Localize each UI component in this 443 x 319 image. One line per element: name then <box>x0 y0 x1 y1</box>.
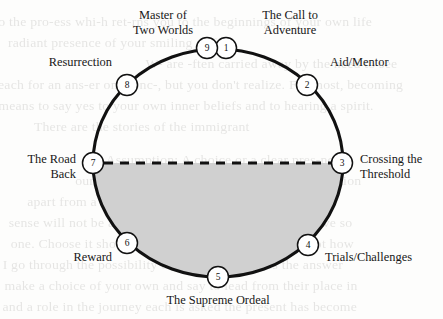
node-label-8: Resurrection <box>49 55 112 70</box>
node-number-7: 7 <box>83 158 103 168</box>
node-number-2: 2 <box>297 80 317 90</box>
node-label-4: Trials/Challenges <box>325 250 412 265</box>
node-number-5: 5 <box>208 272 228 282</box>
node-number-6: 6 <box>117 238 137 248</box>
node-number-3: 3 <box>332 158 352 168</box>
node-number-8: 8 <box>117 80 137 90</box>
figure-page: o the pro-ess whi-h ret-rns you to the b… <box>0 0 443 319</box>
node-label-3: Crossing the Threshold <box>360 152 422 181</box>
node-number-9: 9 <box>197 43 217 53</box>
node-label-5: The Supreme Ordeal <box>166 293 269 308</box>
node-number-1: 1 <box>216 43 236 53</box>
lower-half-shaded-region <box>93 163 343 277</box>
node-label-9: Master of Two Worlds <box>133 8 193 37</box>
node-label-7: The Road Back <box>27 152 76 181</box>
node-label-2: Aid/Mentor <box>330 55 389 70</box>
node-label-1: The Call to Adventure <box>262 8 318 37</box>
node-number-4: 4 <box>298 240 318 250</box>
node-label-6: Reward <box>73 250 112 265</box>
